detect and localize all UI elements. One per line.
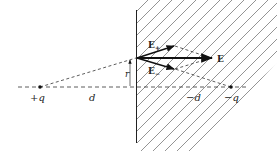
line-plusq-to-point (40, 58, 136, 87)
conductor-hatch (0, 0, 277, 151)
E-plus-label: E+ (148, 40, 160, 51)
d-right-label: −d (186, 92, 201, 103)
plus-q-charge (38, 85, 42, 89)
diagram-canvas: +q d −d −q r E+ E− E (0, 0, 277, 151)
d-left-label: d (89, 92, 95, 103)
E-label: E (217, 54, 224, 64)
E-minus-label: E− (148, 66, 160, 77)
r-label: r (125, 69, 130, 79)
minus-q-charge (229, 85, 233, 89)
plus-q-label: +q (30, 92, 45, 103)
image-charge-diagram: +q d −d −q r E+ E− E (0, 0, 277, 151)
minus-q-label: −q (224, 92, 239, 103)
